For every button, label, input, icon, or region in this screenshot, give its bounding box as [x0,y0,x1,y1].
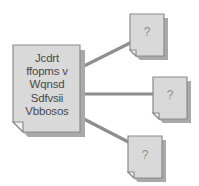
source-document-body [13,45,80,132]
unknown-document-middle[interactable] [153,77,191,123]
unknown-document-top-fold [130,50,136,56]
diagram-svg [0,0,199,186]
source-document[interactable] [13,45,85,137]
unknown-document-bottom-fold [128,172,134,178]
diagram-canvas: Jcdrt ffopms v Wqnsd Sdfvsii Vbbosos ? ?… [0,0,199,186]
unknown-document-middle-fold [153,113,159,119]
unknown-document-bottom[interactable] [128,136,166,182]
source-document-fold [13,122,23,132]
unknown-document-top[interactable] [130,14,168,60]
